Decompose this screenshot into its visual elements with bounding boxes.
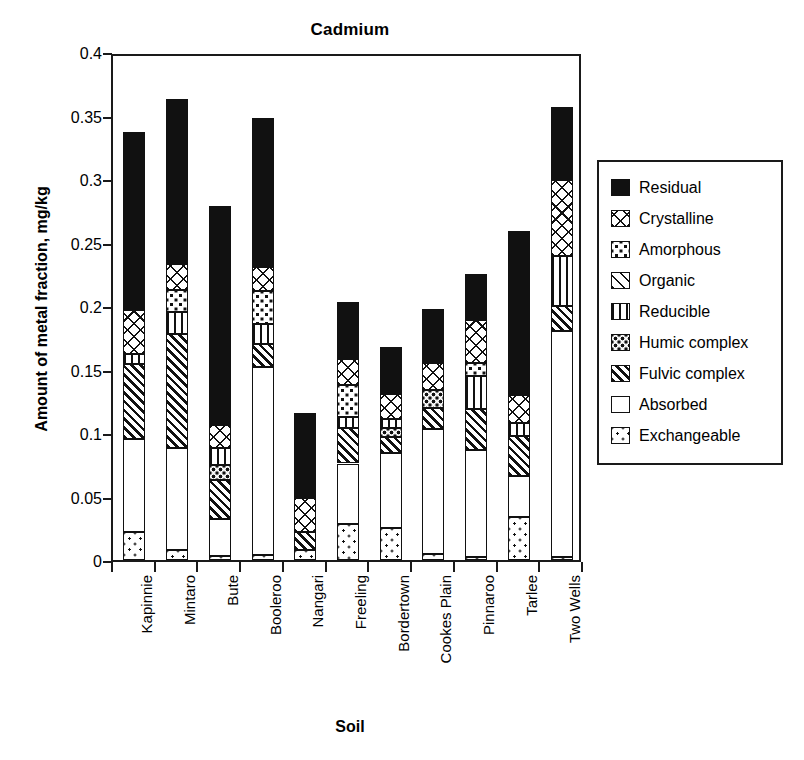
x-tick-mark bbox=[538, 562, 540, 572]
legend-item-fulvic-complex: Fulvic complex bbox=[611, 358, 773, 389]
bar-segment-reducible bbox=[123, 354, 145, 364]
bar-tarlee bbox=[508, 194, 530, 560]
x-tick-mark bbox=[581, 562, 583, 572]
legend-item-crystalline: Crystalline bbox=[611, 203, 773, 234]
medium-dots-swatch bbox=[611, 241, 630, 258]
bar-segment-fulvic-complex bbox=[551, 306, 573, 331]
bar-segment-residual bbox=[508, 231, 530, 395]
bar-nangari bbox=[294, 413, 316, 560]
x-tick-mark bbox=[367, 562, 369, 572]
bar-segment-residual bbox=[209, 206, 231, 426]
legend-item-exchangeable: Exchangeable bbox=[611, 420, 773, 451]
x-tick-mark bbox=[325, 562, 327, 572]
bar-segment-absorbed bbox=[422, 429, 444, 553]
bar-segment-crystalline bbox=[508, 395, 530, 423]
bar-segment-amorphous bbox=[166, 290, 188, 313]
bar-segment-reducible bbox=[551, 256, 573, 306]
y-tick-label: 0.3 bbox=[40, 172, 102, 190]
x-tick-label-text: Pinnaroo bbox=[480, 575, 497, 635]
y-tick-label: 0.4 bbox=[40, 45, 102, 63]
bar-segment-fulvic-complex bbox=[337, 428, 359, 464]
y-tick-label: 0.2 bbox=[40, 299, 102, 317]
x-tick-label-text: Freeling bbox=[352, 575, 369, 629]
bar-segment-residual bbox=[380, 347, 402, 394]
x-tick-label: Bute bbox=[224, 575, 241, 606]
x-tick-label-text: Kapinnie bbox=[138, 575, 155, 633]
bar-segment-exchangeable bbox=[123, 532, 145, 560]
bar-segment-exchangeable bbox=[252, 555, 274, 560]
x-tick-label: Pinnaroo bbox=[480, 575, 497, 635]
legend-item-label: Reducible bbox=[639, 303, 710, 321]
page-title: Cadmium bbox=[120, 20, 580, 40]
x-tick-label-text: Booleroo bbox=[267, 575, 284, 635]
bar-segment-crystalline bbox=[551, 180, 573, 256]
bar-segment-crystalline bbox=[166, 264, 188, 289]
cross-hatch-swatch bbox=[611, 210, 630, 227]
bar-segment-absorbed bbox=[508, 476, 530, 517]
x-tick-mark bbox=[282, 562, 284, 572]
bar-bute bbox=[209, 206, 231, 560]
bar-segment-exchangeable bbox=[166, 550, 188, 560]
bar-segment-crystalline bbox=[123, 310, 145, 354]
x-tick-label: Freeling bbox=[352, 575, 369, 629]
legend-item-label: Organic bbox=[639, 272, 695, 290]
bar-segment-humic-complex bbox=[380, 428, 402, 437]
bar-segment-absorbed bbox=[337, 464, 359, 525]
x-tick-label-text: Tarlee bbox=[523, 575, 540, 616]
bar-segment-crystalline bbox=[209, 425, 231, 448]
bar-kapinnie bbox=[123, 132, 145, 560]
coarse-dots-swatch bbox=[611, 334, 630, 351]
x-tick-label: Nangari bbox=[309, 575, 326, 628]
y-tick-label: 0.15 bbox=[40, 363, 102, 381]
x-tick-label: Booleroo bbox=[267, 575, 284, 635]
legend-item-label: Amorphous bbox=[639, 241, 721, 259]
y-tick-label: 0.05 bbox=[40, 490, 102, 508]
bar-segment-exchangeable bbox=[294, 550, 316, 560]
y-tick-label: 0 bbox=[40, 553, 102, 571]
vertical-lines-swatch bbox=[611, 303, 630, 320]
x-tick-label-text: Nangari bbox=[309, 575, 326, 628]
bar-segment-reducible bbox=[380, 419, 402, 428]
x-tick-label-text: Bute bbox=[224, 575, 241, 606]
x-tick-mark bbox=[453, 562, 455, 572]
bar-segment-humic-complex bbox=[422, 390, 444, 408]
bar-segment-fulvic-complex bbox=[166, 334, 188, 448]
bar-segment-fulvic-complex bbox=[465, 409, 487, 450]
bar-segment-residual bbox=[551, 107, 573, 181]
bar-segment-absorbed bbox=[166, 448, 188, 550]
legend-item-humic-complex: Humic complex bbox=[611, 327, 773, 358]
bar-two-wells bbox=[551, 107, 573, 560]
bar-segment-exchangeable bbox=[508, 517, 530, 560]
bar-segment-exchangeable bbox=[551, 557, 573, 560]
bar-segment-amorphous bbox=[465, 363, 487, 376]
bar-segment-residual bbox=[465, 274, 487, 320]
legend-item-label: Humic complex bbox=[639, 334, 748, 352]
y-tick-label: 0.35 bbox=[40, 109, 102, 127]
bar-segment-exchangeable bbox=[465, 557, 487, 560]
x-tick-label: Tarlee bbox=[523, 575, 540, 616]
bar-segment-reducible bbox=[209, 448, 231, 465]
bar-segment-residual bbox=[337, 302, 359, 359]
bar-segment-exchangeable bbox=[380, 528, 402, 560]
bar-segment-fulvic-complex bbox=[508, 436, 530, 477]
y-tick-label: 0.25 bbox=[40, 236, 102, 254]
y-axis-tick-labels: 00.050.10.150.20.250.30.350.4 bbox=[36, 54, 102, 562]
x-tick-mark bbox=[239, 562, 241, 572]
bar-segment-absorbed bbox=[209, 519, 231, 556]
bar-segment-humic-complex bbox=[209, 465, 231, 480]
bar-booleroo bbox=[252, 118, 274, 560]
legend-item-residual: Residual bbox=[611, 172, 773, 203]
legend-item-label: Absorbed bbox=[639, 396, 708, 414]
bar-segment-exchangeable bbox=[422, 554, 444, 560]
bar-segment-absorbed bbox=[551, 331, 573, 557]
legend-item-amorphous: Amorphous bbox=[611, 234, 773, 265]
bar-segment-residual bbox=[123, 132, 145, 310]
legend-item-label: Residual bbox=[639, 179, 701, 197]
bar-pinnaroo bbox=[465, 274, 487, 560]
bar-segment-reducible bbox=[508, 423, 530, 436]
x-tick-label-text: Cookes Plain bbox=[437, 575, 454, 663]
x-tick-mark bbox=[496, 562, 498, 572]
bar-segment-crystalline bbox=[337, 359, 359, 384]
bar-segment-residual bbox=[294, 413, 316, 498]
bar-segment-residual bbox=[166, 99, 188, 264]
